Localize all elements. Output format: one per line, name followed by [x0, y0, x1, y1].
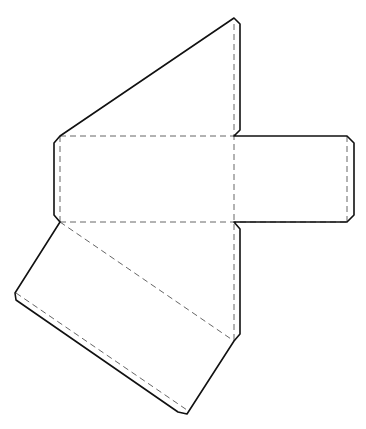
- net-canvas: [0, 0, 366, 429]
- fold-diagonal-lower: [16, 293, 187, 410]
- fold-lines: [16, 24, 347, 410]
- cut-outline: [15, 18, 354, 414]
- fold-diagonal-upper: [60, 222, 234, 341]
